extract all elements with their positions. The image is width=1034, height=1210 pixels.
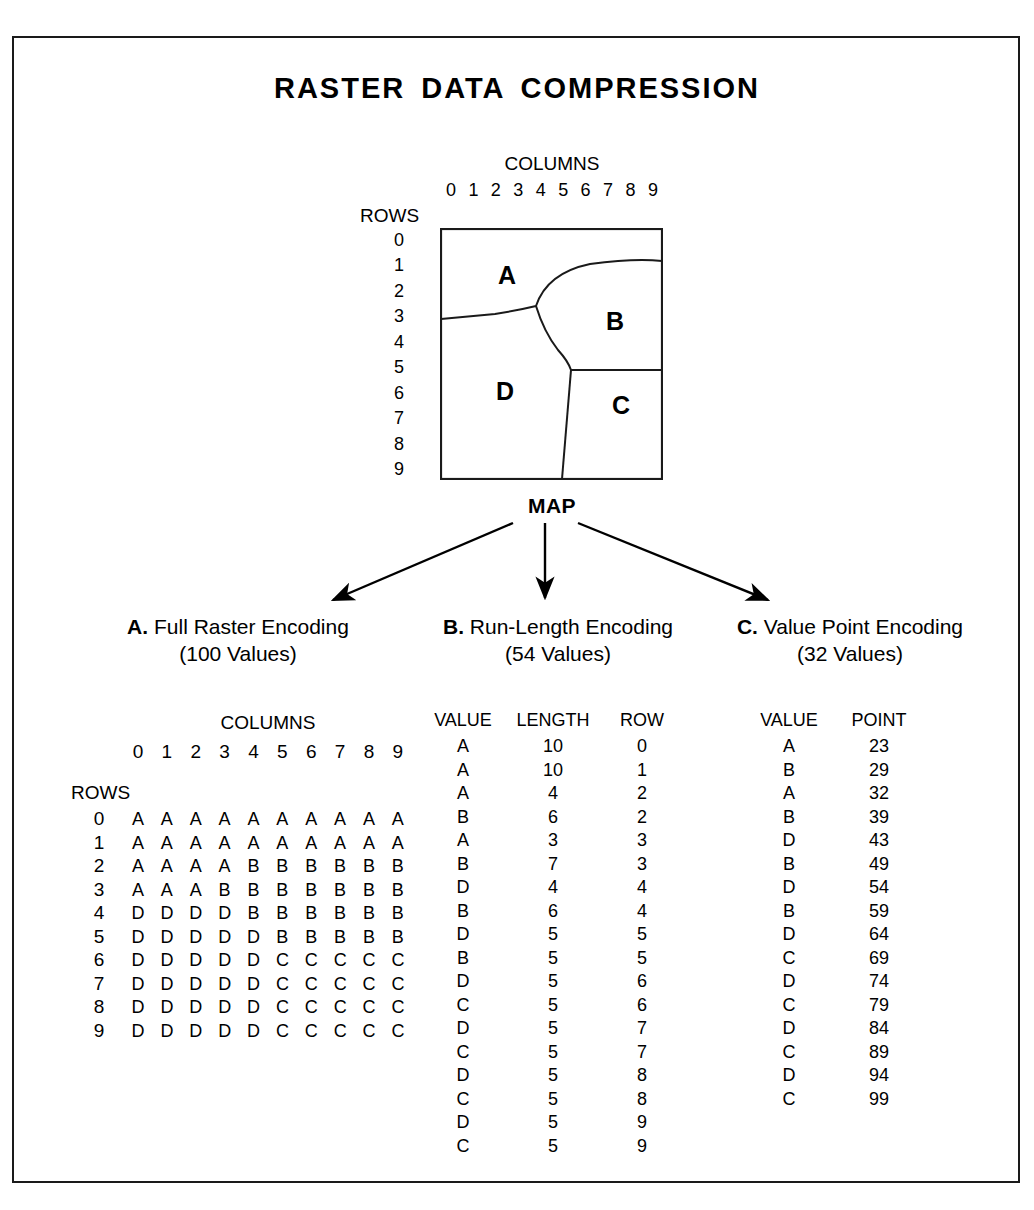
map-row-num: 2 <box>392 282 406 301</box>
table-row: 8 D D D D D C C C C C <box>86 996 408 1020</box>
cell-length: 5 <box>504 994 602 1018</box>
table-row: D 5 8 <box>422 1064 682 1088</box>
grid-cell: A <box>359 833 379 854</box>
map-col-num: 4 <box>530 180 552 201</box>
cell-length: 5 <box>504 923 602 947</box>
full-raster-row-cells: D D D D D C C C C C <box>128 997 408 1018</box>
full-raster-row-cells: A A A A A A A A A A <box>128 809 408 830</box>
cell-value: A <box>422 759 504 783</box>
grid-cell: D <box>244 997 264 1018</box>
grid-cell: A <box>128 880 148 901</box>
cell-length: 3 <box>504 829 602 853</box>
full-raster-row-num: 9 <box>86 1020 112 1042</box>
cell-length: 5 <box>504 1135 602 1159</box>
table-header-row: VALUE LENGTH ROW <box>422 710 682 731</box>
cell-value: B <box>422 806 504 830</box>
cell-row: 9 <box>602 1111 682 1135</box>
table-row: D 43 <box>748 829 928 853</box>
cell-value: B <box>422 853 504 877</box>
cell-point: 59 <box>830 900 928 924</box>
cell-point: 32 <box>830 782 928 806</box>
table-row: C 79 <box>748 994 928 1018</box>
cell-value: D <box>748 829 830 853</box>
full-raster-rows-label: ROWS <box>71 782 130 804</box>
full-raster-row-num: 6 <box>86 949 112 971</box>
column-header-value: VALUE <box>748 710 830 731</box>
grid-cell: A <box>157 880 177 901</box>
full-raster-row-cells: D D D D D C C C C C <box>128 1021 408 1042</box>
table-row: B 59 <box>748 900 928 924</box>
grid-cell: D <box>157 1021 177 1042</box>
grid-cell: B <box>388 903 408 924</box>
grid-cell: C <box>301 997 321 1018</box>
grid-cell: B <box>359 880 379 901</box>
cell-row: 8 <box>602 1088 682 1112</box>
grid-cell: B <box>272 927 292 948</box>
table-row: D 4 4 <box>422 876 682 900</box>
grid-cell: B <box>301 880 321 901</box>
grid-cell: C <box>272 1021 292 1042</box>
table-row: A 32 <box>748 782 928 806</box>
cell-value: A <box>422 829 504 853</box>
grid-cell: A <box>359 809 379 830</box>
cell-value: D <box>422 1111 504 1135</box>
grid-cell: C <box>359 974 379 995</box>
map-caption: MAP <box>440 494 664 518</box>
table-row: D 5 7 <box>422 1017 682 1041</box>
section-name: Run-Length Encoding <box>470 615 673 638</box>
cell-point: 39 <box>830 806 928 830</box>
full-raster-row-num: 7 <box>86 973 112 995</box>
map-region-label-c: C <box>612 391 630 419</box>
table-row: D 74 <box>748 970 928 994</box>
grid-cell: B <box>330 927 350 948</box>
cell-row: 0 <box>602 735 682 759</box>
grid-cell: B <box>272 880 292 901</box>
cell-point: 29 <box>830 759 928 783</box>
cell-value: C <box>748 1041 830 1065</box>
table-row: D 64 <box>748 923 928 947</box>
full-raster-row-num: 4 <box>86 902 112 924</box>
grid-cell: D <box>128 950 148 971</box>
full-raster-grid: 0 A A A A A A A A A A 1 A A A A A A <box>86 808 408 1043</box>
grid-cell: C <box>301 1021 321 1042</box>
map-col-num: 0 <box>440 180 462 201</box>
grid-cell: D <box>186 927 206 948</box>
grid-cell: B <box>330 880 350 901</box>
cell-point: 23 <box>830 735 928 759</box>
cell-row: 7 <box>602 1041 682 1065</box>
full-raster-col-num: 1 <box>157 741 177 763</box>
grid-cell: B <box>301 927 321 948</box>
map-region-label-a: A <box>498 261 516 289</box>
table-row: D 5 9 <box>422 1111 682 1135</box>
cell-row: 7 <box>602 1017 682 1041</box>
grid-cell: D <box>157 927 177 948</box>
full-raster-row-num: 8 <box>86 996 112 1018</box>
grid-cell: A <box>330 833 350 854</box>
grid-cell: D <box>157 974 177 995</box>
grid-cell: D <box>128 903 148 924</box>
section-letter: A. <box>127 615 148 638</box>
map-col-num: 1 <box>462 180 484 201</box>
table-row: A 23 <box>748 735 928 759</box>
grid-cell: D <box>215 997 235 1018</box>
cell-value: B <box>748 759 830 783</box>
grid-cell: D <box>244 974 264 995</box>
map-row-num: 3 <box>392 307 406 326</box>
cell-value: B <box>748 853 830 877</box>
full-raster-row-cells: D D D D D C C C C C <box>128 950 408 971</box>
table-row: D 94 <box>748 1064 928 1088</box>
column-header-point: POINT <box>830 710 928 731</box>
grid-cell: D <box>215 927 235 948</box>
cell-length: 7 <box>504 853 602 877</box>
grid-cell: B <box>330 856 350 877</box>
full-raster-col-num: 0 <box>128 741 148 763</box>
table-row: B 7 3 <box>422 853 682 877</box>
grid-cell: C <box>330 997 350 1018</box>
grid-cell: A <box>128 809 148 830</box>
grid-cell: A <box>128 833 148 854</box>
map-col-num: 5 <box>552 180 574 201</box>
cell-row: 6 <box>602 970 682 994</box>
cell-value: B <box>422 900 504 924</box>
cell-value: D <box>422 1017 504 1041</box>
cell-row: 8 <box>602 1064 682 1088</box>
